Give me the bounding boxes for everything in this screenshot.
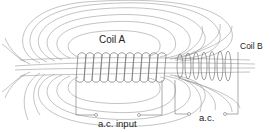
ac-output-label: a.c. [199,113,214,123]
input-terminals[interactable] [95,114,141,117]
mutual-induction-diagram: Coil A Coil B a.c. input a.c. [0,0,270,133]
coil-b-label: Coil B [240,42,263,51]
coil-a-label: Coil A [99,35,125,45]
coil-a-windings [76,53,166,83]
ac-input-label: a.c. input [98,119,137,129]
diagram-canvas [0,0,270,133]
